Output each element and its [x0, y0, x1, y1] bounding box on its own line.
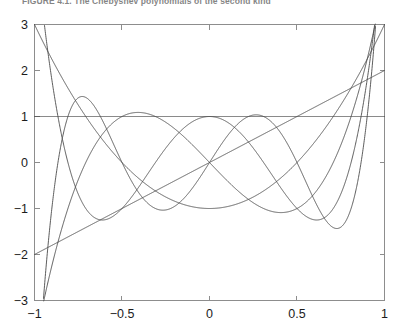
figure-caption: FIGURE 4.1. The Chebyshev polynomials of…	[22, 0, 322, 7]
curve-u4	[45, 26, 375, 220]
x-tick-label: 0	[206, 307, 213, 321]
y-tick-label: 0	[21, 156, 28, 170]
y-tick-label: 1	[21, 110, 28, 124]
x-tick-label: −0.5	[110, 307, 135, 321]
curve-u5	[44, 27, 376, 299]
y-tick-label: −3	[14, 294, 28, 308]
curve-group	[35, 24, 385, 301]
chebyshev-plot: −3−2−10123 −1−0.500.51	[0, 0, 405, 335]
y-tick-label: −2	[14, 248, 28, 262]
x-tick-labels: −1−0.500.51	[27, 307, 388, 321]
y-tick-labels: −3−2−10123	[14, 18, 28, 308]
x-tick-label: 0.5	[288, 307, 305, 321]
x-tick-label: 1	[381, 307, 388, 321]
y-tick-label: 3	[21, 18, 28, 32]
x-tick-label: −1	[27, 307, 41, 321]
figure-panel: FIGURE 4.1. The Chebyshev polynomials of…	[0, 0, 405, 335]
y-tick-label: 2	[21, 64, 28, 78]
y-tick-label: −1	[14, 202, 28, 216]
